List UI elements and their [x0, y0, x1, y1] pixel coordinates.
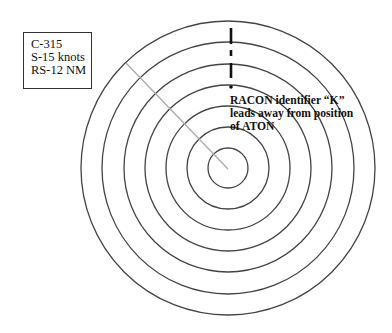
range-ring — [102, 42, 354, 294]
racon-annotation-line-1: RACON identifier “K” — [230, 94, 353, 107]
range-scale-label: RS-12 NM — [31, 64, 91, 77]
range-ring — [81, 21, 375, 315]
racon-annotation-line-2: leads away from position — [230, 107, 353, 120]
racon-dot — [229, 85, 233, 89]
racon-signal-marks — [229, 28, 233, 89]
racon-annotation-line-3: of ATON — [230, 120, 353, 133]
vessel-info-box: C-315 S-15 knots RS-12 NM — [23, 32, 92, 89]
heading-line — [126, 63, 228, 169]
racon-annotation: RACON identifier “K” leads away from pos… — [230, 94, 353, 133]
range-rings — [81, 21, 375, 315]
